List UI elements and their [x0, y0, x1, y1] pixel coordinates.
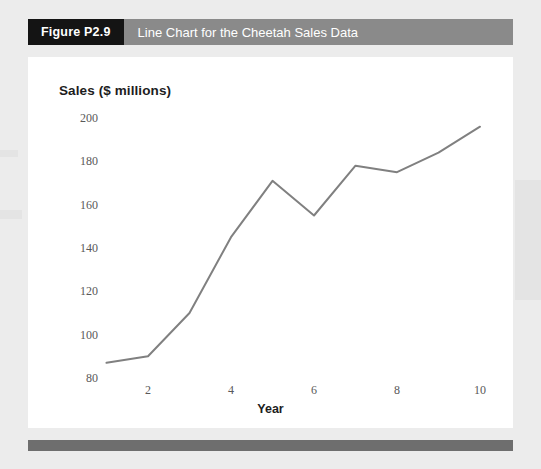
- x-tick-label: 6: [294, 383, 334, 398]
- x-tick-label: 10: [460, 383, 500, 398]
- sales-line-series: [107, 127, 481, 363]
- page-footer-bar: [28, 440, 513, 451]
- y-tick-label: 200: [64, 111, 98, 126]
- x-tick-label: 4: [211, 383, 251, 398]
- y-tick-label: 180: [64, 154, 98, 169]
- chart-panel: Sales ($ millions) 80100120140160180200 …: [28, 57, 513, 428]
- y-tick-label: 80: [64, 371, 98, 386]
- figure-caption: Line Chart for the Cheetah Sales Data: [124, 19, 358, 45]
- x-axis-title: Year: [28, 402, 513, 416]
- y-tick-label: 140: [64, 241, 98, 256]
- paper-speckle: [0, 210, 22, 219]
- x-tick-label: 8: [377, 383, 417, 398]
- y-tick-label: 100: [64, 327, 98, 342]
- x-tick-label: 2: [128, 383, 168, 398]
- y-tick-label: 160: [64, 197, 98, 212]
- line-series-svg: [28, 57, 513, 428]
- y-tick-label: 120: [64, 284, 98, 299]
- paper-speckle: [0, 150, 18, 157]
- figure-page: Figure P2.9 Line Chart for the Cheetah S…: [0, 0, 541, 469]
- figure-number-badge: Figure P2.9: [28, 19, 124, 45]
- figure-header: Figure P2.9 Line Chart for the Cheetah S…: [28, 19, 513, 45]
- paper-speckle: [515, 180, 541, 300]
- plot-area: 80100120140160180200 246810: [28, 57, 513, 428]
